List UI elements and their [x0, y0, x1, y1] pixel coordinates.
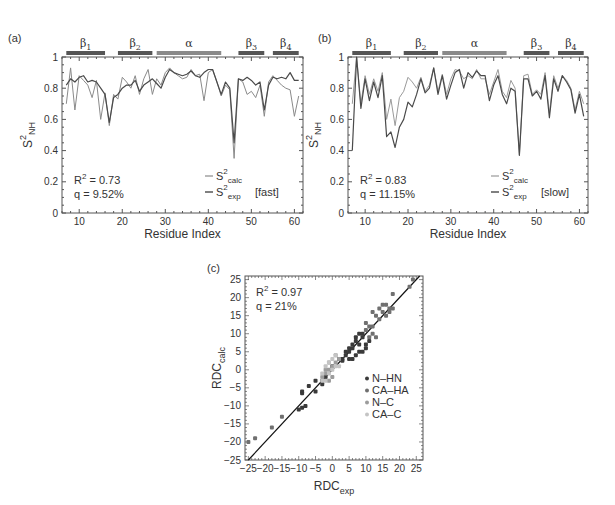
svg-text:S2NH: S2NH	[18, 122, 37, 148]
data-point	[364, 346, 368, 350]
data-point	[344, 350, 348, 354]
svg-text:10: 10	[74, 216, 86, 227]
legend: N–HNCA–HAN–CCA–C	[365, 372, 409, 420]
svg-text:CA–C: CA–C	[372, 408, 401, 420]
svg-text:0.4: 0.4	[44, 145, 58, 156]
data-point	[246, 440, 250, 444]
svg-text:−15: −15	[224, 418, 241, 429]
svg-text:20: 20	[230, 292, 242, 303]
svg-text:1: 1	[52, 52, 58, 63]
svg-text:5: 5	[235, 346, 241, 357]
scatter-series	[297, 332, 372, 412]
legend: S2calcS2exp[fast]	[205, 167, 279, 201]
data-point	[361, 332, 365, 336]
svg-text:10: 10	[360, 216, 372, 227]
data-point	[361, 350, 365, 354]
series-line-calc	[352, 57, 583, 155]
series-line-calc	[66, 68, 298, 158]
panel-label: (b)	[318, 32, 331, 44]
data-point	[371, 325, 375, 329]
panel-c: (c)−25−20−15−10−50510152025−25−20−15−10−…	[207, 262, 423, 496]
svg-text:−15: −15	[273, 463, 290, 474]
svg-text:α: α	[185, 37, 193, 50]
svg-text:40: 40	[203, 216, 215, 227]
svg-text:β1: β1	[80, 37, 91, 52]
figure: (a)β1β2αβ3β410203040506000.20.40.60.81Re…	[0, 0, 615, 505]
svg-text:R2 = 0.73: R2 = 0.73	[74, 172, 120, 186]
svg-text:60: 60	[574, 216, 586, 227]
svg-text:50: 50	[246, 216, 258, 227]
data-point	[364, 321, 368, 325]
svg-text:R2 = 0.97: R2 = 0.97	[256, 284, 302, 298]
svg-text:0: 0	[52, 208, 58, 219]
ss-bar	[442, 51, 506, 55]
data-point	[330, 368, 334, 372]
data-point	[307, 384, 311, 388]
svg-text:[fast]: [fast]	[255, 186, 279, 198]
svg-text:[slow]: [slow]	[541, 186, 569, 198]
data-point	[354, 335, 358, 339]
svg-text:−10: −10	[290, 463, 307, 474]
ss-bar	[157, 51, 222, 55]
data-point	[314, 389, 318, 393]
data-point	[354, 339, 358, 343]
x-axis-label: RDCexp	[314, 479, 355, 496]
svg-text:30: 30	[445, 216, 457, 227]
data-point	[320, 382, 324, 386]
svg-text:25: 25	[230, 274, 242, 285]
stats-annotation: R2 = 0.83q = 11.15%	[360, 172, 415, 200]
svg-text:q = 9.52%: q = 9.52%	[74, 188, 124, 200]
secondary-structure-bars: β1β2αβ3β4	[352, 37, 583, 55]
data-point	[357, 343, 361, 347]
data-point	[367, 335, 371, 339]
svg-text:S2NH: S2NH	[304, 122, 323, 148]
svg-text:q = 21%: q = 21%	[256, 300, 297, 312]
svg-text:−25: −25	[224, 455, 241, 466]
legend: S2calcS2exp[slow]	[491, 167, 569, 201]
secondary-structure-bars: β1β2αβ3β4	[66, 37, 298, 55]
data-point	[391, 306, 395, 310]
stats-annotation: R2 = 0.97q = 21%	[256, 284, 302, 312]
svg-text:−20: −20	[257, 463, 274, 474]
data-point	[374, 314, 378, 318]
data-point	[381, 310, 385, 314]
y-axis-label: RDCcalc	[210, 347, 227, 390]
svg-text:10: 10	[360, 463, 372, 474]
data-point	[280, 415, 284, 419]
data-point	[334, 353, 338, 357]
svg-text:β4: β4	[565, 37, 576, 52]
data-point	[377, 306, 381, 310]
svg-text:0.2: 0.2	[330, 176, 344, 187]
svg-text:β3: β3	[531, 37, 542, 52]
data-point	[314, 379, 318, 383]
data-point	[337, 364, 341, 368]
svg-text:0.8: 0.8	[44, 83, 58, 94]
data-point	[371, 310, 375, 314]
svg-text:S2calc: S2calc	[216, 167, 242, 185]
svg-text:q = 11.15%: q = 11.15%	[360, 188, 415, 200]
svg-text:N–C: N–C	[372, 396, 394, 408]
panel-a: (a)β1β2αβ3β410203040506000.20.40.60.81Re…	[8, 32, 303, 241]
svg-text:R2 = 0.83: R2 = 0.83	[360, 172, 406, 186]
panel-b: (b)β1β2αβ3β410203040506000.20.40.60.81Re…	[304, 32, 588, 241]
svg-text:0.8: 0.8	[330, 83, 344, 94]
svg-text:−20: −20	[224, 436, 241, 447]
data-point	[377, 317, 381, 321]
data-point	[320, 379, 324, 383]
svg-text:β3: β3	[246, 37, 257, 52]
svg-text:α: α	[471, 37, 479, 50]
svg-text:15: 15	[377, 463, 389, 474]
svg-text:1: 1	[338, 52, 344, 63]
y-axis-label: S2NH	[18, 122, 37, 148]
svg-text:S2calc: S2calc	[502, 167, 528, 185]
data-point	[374, 335, 378, 339]
svg-text:20: 20	[402, 216, 414, 227]
svg-text:50: 50	[531, 216, 543, 227]
data-point	[300, 391, 304, 395]
data-point	[324, 364, 328, 368]
data-point	[350, 343, 354, 347]
data-point	[320, 371, 324, 375]
data-point	[387, 310, 391, 314]
x-axis-label: Residue Index	[144, 227, 221, 241]
stats-annotation: R2 = 0.73q = 9.52%	[74, 172, 124, 200]
